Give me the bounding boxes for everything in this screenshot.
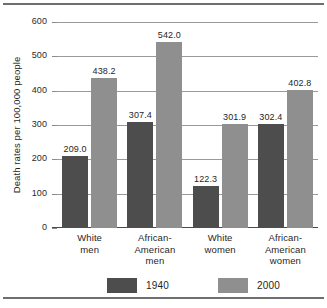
bar-value-label: 122.3	[186, 174, 226, 184]
bar-1940-0	[62, 156, 88, 228]
bar-2000-1	[156, 42, 182, 228]
bar-1940-3	[258, 124, 284, 228]
legend-swatch-icon	[107, 278, 137, 293]
legend-label: 2000	[257, 280, 280, 291]
chart-legend: 19402000	[0, 277, 327, 295]
y-axis-tick	[52, 22, 57, 23]
bar-value-label: 302.4	[251, 112, 291, 122]
bar-value-label: 301.9	[215, 112, 255, 122]
chart-figure: Death rates per 100,000 people 010020030…	[0, 0, 327, 308]
bar-1940-2	[193, 186, 219, 228]
y-axis-tick	[52, 159, 57, 160]
y-axis-tick	[52, 228, 57, 229]
y-axis-tick-label: 0	[0, 222, 47, 232]
legend-item-2000: 2000	[218, 277, 280, 293]
y-axis-tick-label: 100	[0, 188, 47, 198]
y-axis-tick-label: 300	[0, 119, 47, 129]
x-axis-category-label: African- American women	[247, 232, 324, 267]
bar-value-label: 307.4	[120, 110, 160, 120]
legend-swatch-icon	[218, 278, 248, 293]
y-axis-tick-label: 500	[0, 50, 47, 60]
legend-item-1940: 1940	[107, 277, 169, 293]
bar-value-label: 438.2	[84, 66, 124, 76]
y-axis-tick	[52, 125, 57, 126]
legend-label: 1940	[146, 280, 169, 291]
y-axis-tick	[52, 91, 57, 92]
plot-area: 209.0438.2307.4542.0122.3301.9302.4402.8	[57, 22, 318, 228]
bar-value-label: 402.8	[280, 78, 320, 88]
bar-value-label: 209.0	[55, 144, 95, 154]
gridline	[57, 56, 318, 57]
y-axis-tick	[52, 56, 57, 57]
bar-2000-3	[287, 90, 313, 228]
bar-1940-1	[127, 122, 153, 228]
bar-value-label: 542.0	[149, 30, 189, 40]
bottom-divider-rule	[3, 297, 324, 299]
y-axis-tick-label: 400	[0, 85, 47, 95]
top-divider-rule	[3, 3, 324, 5]
y-axis-tick-label: 200	[0, 153, 47, 163]
gridline	[57, 22, 318, 23]
y-axis-tick	[52, 194, 57, 195]
y-axis-tick-label: 600	[0, 16, 47, 26]
